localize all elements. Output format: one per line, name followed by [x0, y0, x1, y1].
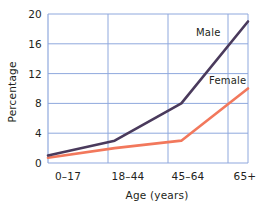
chart-canvas: 20 16 12 8 4 0 0–17 18–44 45–64 65+ Age …: [0, 0, 259, 207]
y-tick-label-0: 0: [35, 157, 42, 169]
series-label-male: Male: [196, 27, 221, 38]
x-tick-label-0-17: 0–17: [55, 170, 81, 182]
y-axis-tick-labels: 20 16 12 8 4 0: [28, 8, 42, 169]
y-tick-label-4: 4: [35, 127, 42, 139]
y-tick-label-20: 20: [28, 8, 42, 20]
y-tick-label-16: 16: [28, 38, 42, 50]
series-label-female: Female: [209, 75, 246, 86]
x-tick-label-65plus: 65+: [234, 170, 257, 182]
y-axis-title: Percentage: [6, 61, 18, 122]
line-chart: 20 16 12 8 4 0 0–17 18–44 45–64 65+ Age …: [0, 0, 259, 207]
x-tick-label-18-44: 18–44: [112, 170, 145, 182]
x-axis-tick-labels: 0–17 18–44 45–64 65+: [55, 170, 256, 182]
x-axis-title: Age (years): [126, 189, 189, 201]
y-tick-label-12: 12: [28, 68, 42, 80]
y-tick-label-8: 8: [35, 97, 42, 109]
x-tick-label-45-64: 45–64: [172, 170, 205, 182]
